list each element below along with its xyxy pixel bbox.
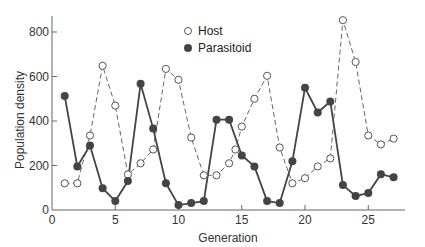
parasitoid-data-point [86, 142, 94, 150]
parasitoid-data-point [314, 109, 322, 117]
x-tick-label: 0 [49, 213, 56, 227]
host-data-point [200, 172, 207, 179]
host-data-point [276, 144, 283, 151]
parasitoid-data-point [288, 157, 296, 165]
host-data-point [188, 134, 195, 141]
parasitoid-data-point [301, 84, 309, 92]
host-data-point [232, 146, 239, 153]
parasitoid-data-point [111, 197, 119, 205]
host-data-point [226, 160, 233, 167]
host-data-point [352, 58, 359, 65]
parasitoid-data-point [124, 177, 132, 185]
host-data-point [251, 95, 258, 102]
host-data-point [339, 17, 346, 24]
parasitoid-data-point [238, 152, 246, 160]
y-tick-label: 400 [29, 114, 49, 128]
chart-canvas: 05101520250200400600800 Host Parasitoid … [0, 0, 425, 247]
legend-host-label: Host [198, 24, 223, 38]
host-data-point [137, 160, 144, 167]
parasitoid-data-point [213, 116, 221, 124]
host-data-point [162, 65, 169, 72]
y-tick-label: 800 [29, 25, 49, 39]
parasitoid-data-point [377, 170, 385, 178]
host-data-point [301, 175, 308, 182]
host-data-point [74, 180, 81, 187]
host-data-point [238, 123, 245, 130]
parasitoid-data-point [73, 162, 81, 170]
parasitoid-data-point [390, 173, 398, 181]
parasitoid-data-point [175, 201, 183, 209]
parasitoid-data-point [99, 184, 107, 192]
parasitoid-data-point [162, 179, 170, 187]
host-data-point [289, 180, 296, 187]
parasitoid-data-point [339, 181, 347, 189]
x-axis-title: Generation [198, 231, 257, 245]
population-chart: 05101520250200400600800 Host Parasitoid … [0, 0, 425, 247]
host-data-point [175, 76, 182, 83]
y-tick-label: 0 [42, 203, 49, 217]
host-data-point [377, 141, 384, 148]
host-data-point [264, 72, 271, 79]
host-data-point [124, 171, 131, 178]
legend-parasitoid-marker-icon [184, 44, 192, 52]
host-data-point [61, 180, 68, 187]
parasitoid-data-point [364, 189, 372, 197]
x-tick-label: 20 [298, 213, 312, 227]
host-data-point [86, 132, 93, 139]
host-data-point [390, 135, 397, 142]
legend-host-marker-icon [185, 28, 192, 35]
parasitoid-data-point [137, 80, 145, 88]
parasitoid-data-point [352, 192, 360, 200]
y-axis-title: Population density [13, 71, 27, 169]
parasitoid-data-point [149, 125, 157, 133]
parasitoid-data-point [61, 92, 69, 100]
host-data-point [213, 172, 220, 179]
y-tick-label: 200 [29, 159, 49, 173]
y-tick-label: 600 [29, 70, 49, 84]
legend: Host Parasitoid [184, 24, 251, 55]
host-data-point [150, 146, 157, 153]
parasitoid-data-point [276, 199, 284, 207]
parasitoid-data-point [200, 197, 208, 205]
x-tick-label: 5 [112, 213, 119, 227]
host-data-point [365, 132, 372, 139]
x-tick-label: 10 [172, 213, 186, 227]
parasitoid-data-point [225, 116, 233, 124]
legend-parasitoid-label: Parasitoid [198, 41, 251, 55]
host-data-point [112, 102, 119, 109]
parasitoid-data-point [263, 197, 271, 205]
host-data-point [99, 62, 106, 69]
host-data-point [327, 155, 334, 162]
x-tick-label: 25 [362, 213, 376, 227]
x-tick-label: 15 [235, 213, 249, 227]
parasitoid-data-point [250, 162, 258, 170]
host-data-point [314, 163, 321, 170]
parasitoid-data-point [326, 98, 334, 106]
parasitoid-data-point [187, 199, 195, 207]
